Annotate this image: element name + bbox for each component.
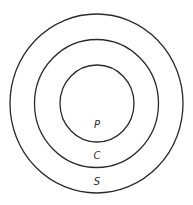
label-c: C	[94, 150, 101, 161]
label-s: S	[94, 176, 101, 187]
outer-circle-s	[10, 14, 183, 193]
concentric-circles-diagram: P C S	[0, 0, 193, 205]
middle-circle-c	[35, 40, 159, 168]
inner-circle-p	[60, 65, 134, 142]
label-p: P	[94, 119, 101, 130]
